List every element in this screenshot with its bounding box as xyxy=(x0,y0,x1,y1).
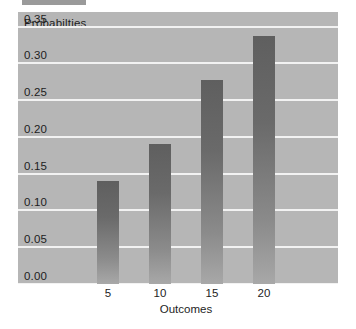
bar xyxy=(253,36,275,284)
x-axis-title: Outcomes xyxy=(126,304,246,316)
gridline xyxy=(18,283,338,284)
bar xyxy=(201,80,223,284)
bar-chart-figure: Probabilties 0.000.050.100.150.200.250.3… xyxy=(0,0,356,329)
gridline xyxy=(18,173,338,175)
y-axis-tick-label: 0.00 xyxy=(24,271,47,283)
y-axis-tick-label: 0.10 xyxy=(24,197,47,209)
x-axis-tick-label: 20 xyxy=(244,288,284,300)
y-axis-tick-label: 0.35 xyxy=(24,14,47,26)
y-axis-tick-label: 0.20 xyxy=(24,124,47,136)
gridline xyxy=(18,246,338,248)
x-axis-tick-label: 5 xyxy=(88,288,128,300)
y-axis-tick-label: 0.05 xyxy=(24,234,47,246)
gridline xyxy=(18,62,338,64)
gridline xyxy=(18,99,338,101)
y-axis-tick-label: 0.30 xyxy=(24,50,47,62)
y-axis-tick-label: 0.15 xyxy=(24,161,47,173)
gridline xyxy=(18,136,338,138)
y-axis-tick-label: 0.25 xyxy=(24,87,47,99)
bar xyxy=(97,181,119,284)
bar xyxy=(149,144,171,284)
toolbar-fragment xyxy=(22,0,86,5)
gridline xyxy=(18,209,338,211)
gridline xyxy=(18,26,338,28)
x-axis-tick-label: 15 xyxy=(192,288,232,300)
x-axis-tick-label: 10 xyxy=(140,288,180,300)
plot-area: Probabilties 0.000.050.100.150.200.250.3… xyxy=(18,12,338,284)
